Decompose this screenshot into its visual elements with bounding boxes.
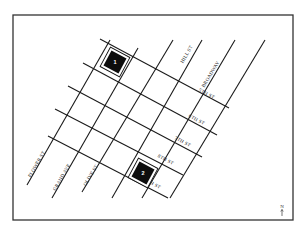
north-arrow-icon: N bbox=[280, 204, 284, 216]
street-label: 7TH ST bbox=[174, 135, 192, 148]
avenue-label: BROADWAY bbox=[201, 60, 221, 88]
north-label: N bbox=[280, 204, 284, 209]
avenue-label: FLOWER ST bbox=[27, 150, 46, 178]
street-line-3 bbox=[55, 109, 183, 175]
avenue-label: HILL ST bbox=[180, 44, 194, 64]
street-line-2 bbox=[68, 86, 202, 157]
marker-1: 1 bbox=[100, 47, 130, 77]
avenue-label: OLIVE ST bbox=[82, 164, 98, 187]
marker-number: 2 bbox=[141, 170, 144, 176]
location-markers: 12 bbox=[100, 47, 158, 188]
street-label: 8TH ST bbox=[157, 153, 175, 165]
street-line-1 bbox=[83, 63, 217, 135]
street-map: FLOWER STGRAND AVEOLIVE STHILL STBROADWA… bbox=[0, 0, 301, 235]
avenue-label: GRAND AVE bbox=[52, 163, 71, 192]
marker-number: 1 bbox=[113, 59, 116, 65]
